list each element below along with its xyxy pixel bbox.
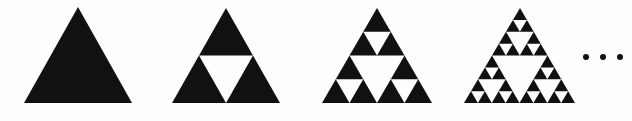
ellipsis-indicator	[583, 54, 623, 60]
sierpinski-stage-3	[464, 8, 575, 103]
figure-title: Sierpinski Triangle Iterations	[0, 0, 1, 1]
outer-triangle	[24, 7, 132, 103]
sierpinski-stage-0	[24, 7, 132, 103]
ellipsis-dot-2	[600, 54, 606, 60]
sierpinski-figure: Sierpinski Triangle Iterations	[0, 0, 632, 121]
sierpinski-stage-1	[172, 8, 280, 103]
ellipsis-dot-3	[617, 54, 623, 60]
ellipsis-dot-1	[583, 54, 589, 60]
sierpinski-stage-2	[322, 8, 432, 103]
